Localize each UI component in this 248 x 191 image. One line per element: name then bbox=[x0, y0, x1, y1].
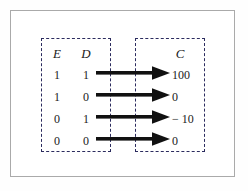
right-arrow-icon bbox=[96, 65, 170, 81]
figure-container: E D 1 1 1 0 0 1 0 0 C 100 0 − 10 0 bbox=[0, 0, 248, 191]
right-arrow-icon bbox=[96, 87, 170, 103]
cell-c-row-2: 0 bbox=[172, 91, 178, 103]
cell-d-row-4: 0 bbox=[74, 135, 98, 147]
cell-e-row-2: 1 bbox=[45, 91, 69, 103]
cell-d-row-2: 0 bbox=[74, 91, 98, 103]
cell-c-row-4: 0 bbox=[172, 135, 178, 147]
right-arrow-icon bbox=[96, 109, 170, 125]
cell-d-row-3: 1 bbox=[74, 113, 98, 125]
column-header-c: C bbox=[168, 47, 192, 60]
cell-e-row-3: 0 bbox=[45, 113, 69, 125]
cell-d-row-1: 1 bbox=[74, 69, 98, 81]
column-header-d: D bbox=[74, 47, 98, 60]
cell-e-row-1: 1 bbox=[45, 69, 69, 81]
cell-c-row-1: 100 bbox=[172, 69, 190, 81]
cell-e-row-4: 0 bbox=[45, 135, 69, 147]
column-header-e: E bbox=[45, 47, 69, 60]
cell-c-row-3: − 10 bbox=[172, 113, 194, 125]
right-arrow-icon bbox=[96, 131, 170, 147]
